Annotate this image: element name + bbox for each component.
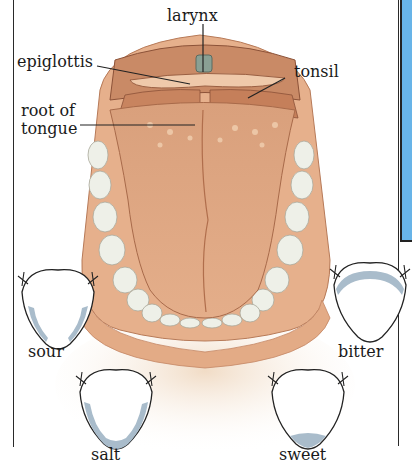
- tongue-diagram-sour: [18, 270, 98, 349]
- label-sour: sour: [28, 344, 64, 360]
- label-salt: salt: [91, 447, 120, 463]
- label-sweet: sweet: [279, 447, 326, 463]
- label-bitter: bitter: [338, 344, 383, 360]
- larynx-shape: [196, 55, 212, 72]
- tongue-diagram-bitter: [330, 263, 410, 342]
- label-root-of-tongue-line1: root of: [21, 103, 75, 119]
- label-larynx: larynx: [167, 8, 218, 24]
- label-epiglottis: epiglottis: [17, 54, 93, 70]
- label-tonsil: tonsil: [294, 64, 339, 80]
- label-root-of-tongue-line2: tongue: [21, 121, 77, 137]
